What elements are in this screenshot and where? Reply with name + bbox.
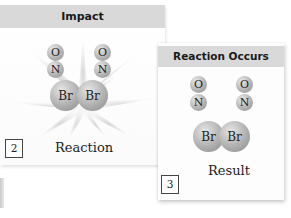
partial-card-edge [0, 178, 4, 208]
bromine-atom: Br [219, 121, 250, 152]
oxygen-atom: O [94, 44, 111, 61]
oxygen-atom: O [236, 76, 253, 93]
panel-reaction-occurs: Reaction Occurs O N O N Br Br Result 3 [158, 43, 284, 200]
oxygen-atom: O [190, 76, 207, 93]
step-number-box: 3 [161, 175, 179, 194]
oxygen-atom: O [47, 44, 64, 61]
panel-impact: Impact O N O N Br Br 2 Reaction [0, 5, 165, 165]
nitrogen-atom: N [94, 61, 111, 78]
panel-caption: Result [208, 163, 250, 178]
panel-title: Reaction Occurs [158, 46, 284, 67]
panel-title: Impact [0, 5, 165, 28]
nitrogen-atom: N [236, 94, 253, 111]
nitrogen-atom: N [47, 61, 64, 78]
nitrogen-atom: N [190, 94, 207, 111]
panel-caption: Reaction [55, 140, 113, 155]
bromine-atom: Br [77, 80, 108, 111]
step-number-box: 2 [5, 139, 23, 158]
